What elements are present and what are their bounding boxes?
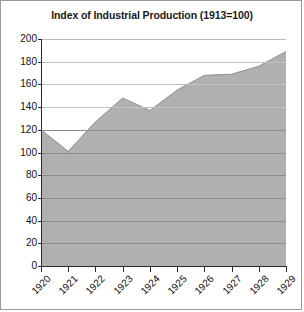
x-axis-tick-label: 1924: [131, 273, 161, 303]
x-axis-tick-label: 1926: [186, 273, 216, 303]
x-axis-tick-label: 1922: [77, 273, 107, 303]
gridline: [41, 221, 286, 222]
x-axis-tick-label: 1927: [213, 273, 243, 303]
y-axis-tick-mark: [38, 84, 42, 85]
x-axis-tick-mark: [204, 267, 205, 272]
y-axis-tick-mark: [38, 153, 42, 154]
x-axis-tick-mark: [68, 267, 69, 272]
x-axis-tick-mark: [123, 267, 124, 272]
y-axis-tick-label: 120: [3, 125, 37, 135]
y-axis-tick-mark: [38, 39, 42, 40]
gridline: [41, 198, 286, 199]
x-axis-tick-mark: [177, 267, 178, 272]
gridline: [41, 39, 286, 40]
x-axis-tick-label: 1921: [50, 273, 80, 303]
x-axis-tick-label: 1923: [104, 273, 134, 303]
y-axis-tick-label: 100: [3, 148, 37, 158]
y-axis-tick-label: 140: [3, 102, 37, 112]
y-axis-tick-mark: [38, 130, 42, 131]
gridline: [41, 243, 286, 244]
x-axis-tick-label: 1925: [158, 273, 188, 303]
y-axis-tick-mark: [38, 175, 42, 176]
y-axis-tick-mark: [38, 62, 42, 63]
gridline: [41, 130, 286, 131]
x-axis-tick-mark: [41, 267, 42, 272]
y-axis-tick-label: 180: [3, 57, 37, 67]
y-axis-labels: 020406080100120140160180200: [1, 1, 37, 312]
x-axis-line: [41, 266, 287, 267]
chart-title: Index of Industrial Production (1913=100…: [1, 9, 303, 21]
x-axis-tick-label: 1929: [267, 273, 297, 303]
y-axis-tick-label: 40: [3, 216, 37, 226]
y-axis-tick-label: 60: [3, 193, 37, 203]
x-axis-tick-mark: [286, 267, 287, 272]
y-axis-tick-mark: [38, 221, 42, 222]
y-axis-tick-label: 0: [3, 261, 37, 271]
y-axis-tick-label: 160: [3, 79, 37, 89]
x-axis-tick-mark: [259, 267, 260, 272]
gridline: [41, 62, 286, 63]
chart-figure: Index of Industrial Production (1913=100…: [0, 0, 302, 310]
y-axis-tick-mark: [38, 198, 42, 199]
x-axis-tick-mark: [150, 267, 151, 272]
x-axis-tick-mark: [232, 267, 233, 272]
y-axis-tick-label: 80: [3, 170, 37, 180]
gridline: [41, 84, 286, 85]
y-axis-tick-label: 200: [3, 34, 37, 44]
y-axis-tick-mark: [38, 107, 42, 108]
gridline: [41, 107, 286, 108]
gridline: [41, 175, 286, 176]
gridline: [41, 153, 286, 154]
y-axis-tick-mark: [38, 243, 42, 244]
x-axis-tick-mark: [95, 267, 96, 272]
plot-area: [41, 39, 286, 266]
y-axis-tick-label: 20: [3, 238, 37, 248]
x-axis-tick-label: 1928: [240, 273, 270, 303]
